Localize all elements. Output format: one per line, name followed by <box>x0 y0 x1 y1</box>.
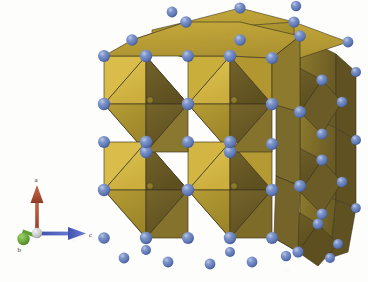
axis-c-label: c <box>89 231 92 239</box>
axis-b-label: b <box>18 246 22 254</box>
crystallographic-axes: a c b <box>0 0 368 282</box>
figure-canvas: a c b <box>0 0 368 282</box>
axis-origin-node <box>32 228 42 238</box>
axis-a-label: a <box>35 176 39 184</box>
axis-a: a <box>31 176 44 233</box>
axis-c: c <box>40 227 92 240</box>
